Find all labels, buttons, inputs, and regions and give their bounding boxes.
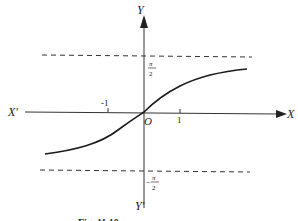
svg-text:2: 2: [149, 70, 153, 78]
lower-asymptote: [40, 170, 250, 172]
x-axis-arrow-icon: [276, 110, 287, 118]
svg-text:2: 2: [152, 184, 156, 192]
arctan-graph: Y Y' X X' O -1 1 π 2 − π 2 Fig. 11.10: [0, 0, 298, 221]
y-axis-neg-label: Y': [135, 199, 145, 213]
origin-label: O: [144, 115, 152, 127]
y-axis-label: Y: [137, 3, 145, 17]
arctan-curve: [45, 69, 247, 154]
tick-label-neg1: -1: [101, 98, 109, 108]
upper-asymptote: [42, 55, 252, 57]
neg-pi-over-2-label: − π 2: [146, 174, 159, 192]
svg-text:π: π: [149, 60, 153, 68]
x-axis-label: X: [286, 107, 295, 121]
svg-text:π: π: [152, 174, 156, 182]
figure-caption: Fig. 11.10: [78, 217, 119, 221]
pi-over-2-label: π 2: [148, 60, 156, 78]
x-axis: [25, 112, 278, 114]
svg-text:−: −: [146, 178, 151, 187]
x-axis-neg-label: X': [7, 105, 18, 119]
tick-label-1: 1: [177, 115, 182, 125]
